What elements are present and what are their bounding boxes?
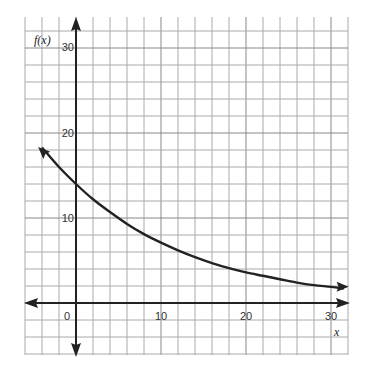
y-axis-label: f(x) [34, 33, 51, 47]
y-tick-20: 20 [62, 127, 74, 139]
y-tick-10: 10 [62, 212, 74, 224]
function-curve [38, 147, 348, 292]
tick-labels: 0 10 20 30 10 20 30 f(x) x [34, 33, 340, 339]
function-graph: 0 10 20 30 10 20 30 f(x) x [0, 0, 370, 372]
origin-label: 0 [64, 310, 70, 322]
y-axis-up-arrow-icon [71, 17, 81, 31]
axes [24, 17, 350, 357]
x-axis-left-arrow-icon [24, 298, 38, 308]
y-axis-down-arrow-icon [71, 343, 81, 357]
x-axis-label: x [333, 325, 340, 339]
grid-lines [25, 17, 348, 355]
x-tick-30: 30 [325, 310, 337, 322]
y-tick-30: 30 [62, 41, 74, 53]
x-tick-20: 20 [240, 310, 252, 322]
x-tick-10: 10 [155, 310, 167, 322]
